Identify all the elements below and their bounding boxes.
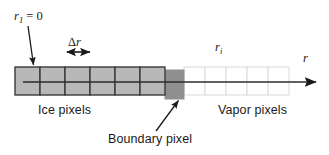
boundary-pixel-cell [165, 70, 184, 99]
boundary-pixel-caption: Boundary pixel [108, 133, 192, 146]
vapor-pixel-cell [184, 67, 205, 95]
r-index-subscript: i [220, 46, 222, 56]
ice-pixel-cell [65, 67, 90, 95]
delta-r-var: r [76, 35, 81, 49]
ice-pixels-caption: Ice pixels [38, 104, 91, 117]
boundary-pointer-arrow [156, 101, 179, 132]
vapor-pixels-caption: Vapor pixels [218, 104, 287, 117]
ice-pixel-cell [15, 67, 40, 95]
origin-label-equals-zero: = 0 [23, 9, 43, 23]
vapor-pixel-cell [247, 67, 268, 95]
ice-pixel-group [15, 67, 165, 95]
ice-pixel-cell [115, 67, 140, 95]
origin-label-subscript: 1 [19, 15, 23, 25]
r-index-label: ri [215, 41, 222, 54]
origin-label: r1 = 0 [14, 10, 43, 23]
origin-pointer-arrow [28, 26, 34, 65]
vapor-pixel-cell [226, 67, 247, 95]
ice-pixel-cell [40, 67, 65, 95]
axis-label-var: r [303, 51, 308, 65]
delta-r-label: Δr [68, 36, 81, 49]
vapor-pixel-cell [205, 67, 226, 95]
ice-pixel-cell [90, 67, 115, 95]
boundary-pixel-group [165, 70, 184, 99]
delta-symbol: Δ [68, 35, 76, 49]
ice-pixel-cell [140, 67, 165, 95]
vapor-pixel-cell [268, 67, 289, 95]
figure-ice-vapor-pixel-grid: r1 = 0 Δr ri r Ice pixels Vapor pixels B… [0, 0, 329, 155]
axis-label-r: r [303, 52, 308, 65]
vapor-pixel-group [184, 67, 289, 95]
